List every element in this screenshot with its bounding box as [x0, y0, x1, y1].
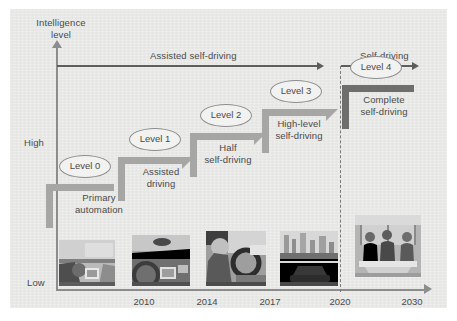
level-pill-4: Level 4 [350, 56, 402, 79]
step-tread [342, 85, 414, 92]
x-tick-2030: 2030 [392, 296, 432, 307]
y-axis-title: Intelligence level [25, 17, 97, 40]
phase-divider-dashed-line [340, 66, 341, 292]
x-axis-arrowhead-icon [424, 284, 432, 294]
x-tick-2014: 2014 [187, 296, 227, 307]
step-tread [118, 157, 186, 164]
assisted-phase-arrow-line [57, 65, 319, 67]
assisted-phase-arrowhead-icon [317, 62, 324, 70]
photo-level-2 [206, 231, 266, 286]
level-caption-4: Complete self-driving [348, 94, 420, 117]
level-caption-1: Assisted driving [130, 166, 192, 189]
y-tick-high: High [24, 137, 44, 149]
x-tick-2017: 2017 [250, 296, 290, 307]
photo-level-3 [280, 231, 338, 286]
step-tread [46, 184, 114, 191]
level-caption-2: Half self-driving [194, 142, 262, 165]
x-tick-2010: 2010 [124, 296, 164, 307]
level-pill-2: Level 2 [200, 104, 252, 127]
level-caption-3: High-level self-driving [264, 118, 334, 141]
photo-level-1 [132, 235, 190, 286]
y-axis-line [56, 47, 58, 291]
y-axis-arrowhead-icon [52, 40, 62, 48]
y-tick-low: Low [27, 277, 45, 289]
level-pill-1: Level 1 [129, 128, 181, 151]
level-pill-3: Level 3 [270, 80, 322, 103]
assisted-phase-label: Assisted self-driving [150, 50, 237, 62]
x-axis-line [56, 289, 426, 291]
step-tread [262, 109, 330, 116]
level-pill-0: Level 0 [59, 155, 111, 178]
figure-panel: Intelligence level High Low 2010 2014 20… [10, 9, 447, 308]
step-tread [190, 133, 258, 140]
x-tick-2020: 2020 [320, 296, 360, 307]
self-driving-phase-arrowhead-icon [412, 62, 419, 70]
photo-level-0 [59, 240, 115, 286]
photo-level-4 [355, 215, 421, 277]
